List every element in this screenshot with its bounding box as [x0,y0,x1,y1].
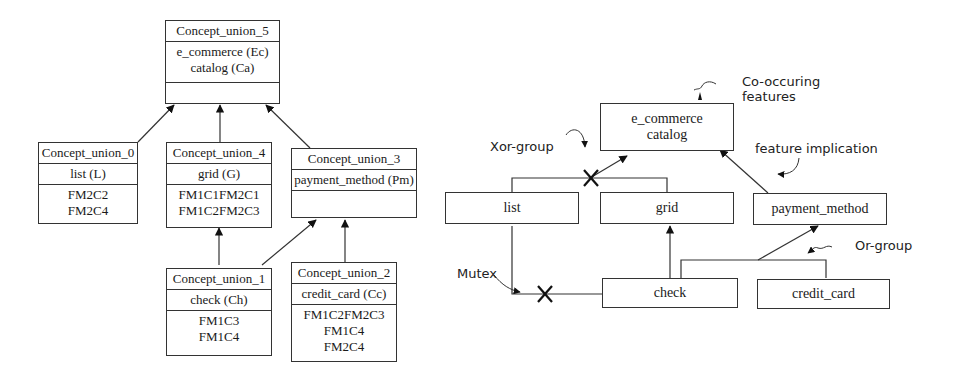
concept-title: Concept_union_2 [292,263,396,284]
feature-implication-label: feature implication [755,141,878,156]
feature-list: list [445,192,579,224]
concept-intent: list (L) [39,164,137,185]
feature-check: check [602,278,738,308]
or-group-label: Or-group [855,238,912,253]
concept-union-5: Concept_union_5 e_commerce (Ec) catalog … [165,20,280,104]
concept-intent: check (Ch) [167,290,271,311]
concept-extent: FM2C2 FM2C4 [39,185,137,221]
mutex-label: Mutex [457,266,497,281]
concept-title: Concept_union_0 [39,143,137,164]
co-occurring-label: Co-occuring features [742,74,820,104]
concept-intent: payment_method (Pm) [292,170,416,191]
connector-lines [0,0,955,379]
concept-union-2: Concept_union_2 credit_card (Cc) FM1C2FM… [291,262,397,362]
concept-union-4: Concept_union_4 grid (G) FM1C1FM2C1 FM1C… [166,142,272,228]
concept-extent: FM1C1FM2C1 FM1C2FM2C3 [167,185,271,221]
concept-extent [166,83,279,105]
concept-intent: grid (G) [167,164,271,185]
xor-group-label: Xor-group [490,139,554,154]
concept-title: Concept_union_5 [166,21,279,42]
concept-intent: credit_card (Cc) [292,284,396,305]
concept-extent [292,191,416,217]
feature-grid: grid [600,192,734,224]
concept-union-3: Concept_union_3 payment_method (Pm) [291,148,417,218]
concept-extent: FM1C2FM2C3 FM1C4 FM2C4 [292,305,396,357]
concept-title: Concept_union_1 [167,269,271,290]
concept-union-1: Concept_union_1 check (Ch) FM1C3 FM1C4 [166,268,272,356]
concept-title: Concept_union_3 [292,149,416,170]
feature-root: e_commerce catalog [600,103,734,151]
concept-extent: FM1C3 FM1C4 [167,311,271,347]
feature-credit-card: credit_card [757,279,890,309]
concept-title: Concept_union_4 [167,143,271,164]
concept-intent: e_commerce (Ec) catalog (Ca) [166,42,279,83]
feature-payment-method: payment_method [753,193,887,225]
concept-union-0: Concept_union_0 list (L) FM2C2 FM2C4 [38,142,138,224]
